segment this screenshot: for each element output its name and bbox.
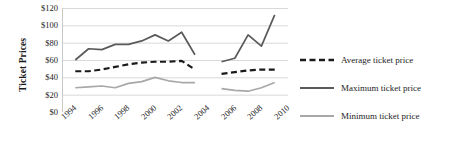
series-line <box>222 70 275 74</box>
legend-item-label: Maximum ticket price <box>341 83 421 93</box>
legend-swatch-icon <box>300 55 334 65</box>
series-line <box>222 15 275 62</box>
y-axis-tick-label: $100 <box>41 20 58 30</box>
y-axis-tick-label: $120 <box>41 3 58 13</box>
y-axis-tick-label: $80 <box>45 38 58 48</box>
legend-item-label: Average ticket price <box>341 55 413 65</box>
series-line <box>75 77 195 87</box>
legend-item[interactable]: Minimum ticket price <box>300 102 450 130</box>
legend-item-label: Minimum ticket price <box>341 111 419 121</box>
legend-item[interactable]: Maximum ticket price <box>300 74 450 102</box>
legend-item[interactable]: Average ticket price <box>300 46 450 74</box>
plot-svg <box>62 8 288 112</box>
y-axis-title: Ticket Prices <box>18 25 28 105</box>
chart-legend: Average ticket priceMaximum ticket price… <box>300 46 450 130</box>
legend-swatch-icon <box>300 111 334 121</box>
legend-swatch-icon <box>300 83 334 93</box>
series-line <box>222 83 275 92</box>
y-axis-tick-label: $20 <box>45 90 58 100</box>
plot-area <box>62 8 288 112</box>
series-line <box>75 61 195 71</box>
y-axis-tick-label: $40 <box>45 72 58 82</box>
y-axis-tick-label: $0 <box>50 107 59 117</box>
y-axis-tick-labels: $0$20$40$60$80$100$120 <box>30 8 60 112</box>
y-axis-tick-label: $60 <box>45 55 58 65</box>
chart-container: Ticket Prices $0$20$40$60$80$100$120 199… <box>0 0 453 165</box>
series-line <box>75 32 195 60</box>
x-axis-tick-labels: 199419961998200020022004200620082010 <box>62 114 288 160</box>
